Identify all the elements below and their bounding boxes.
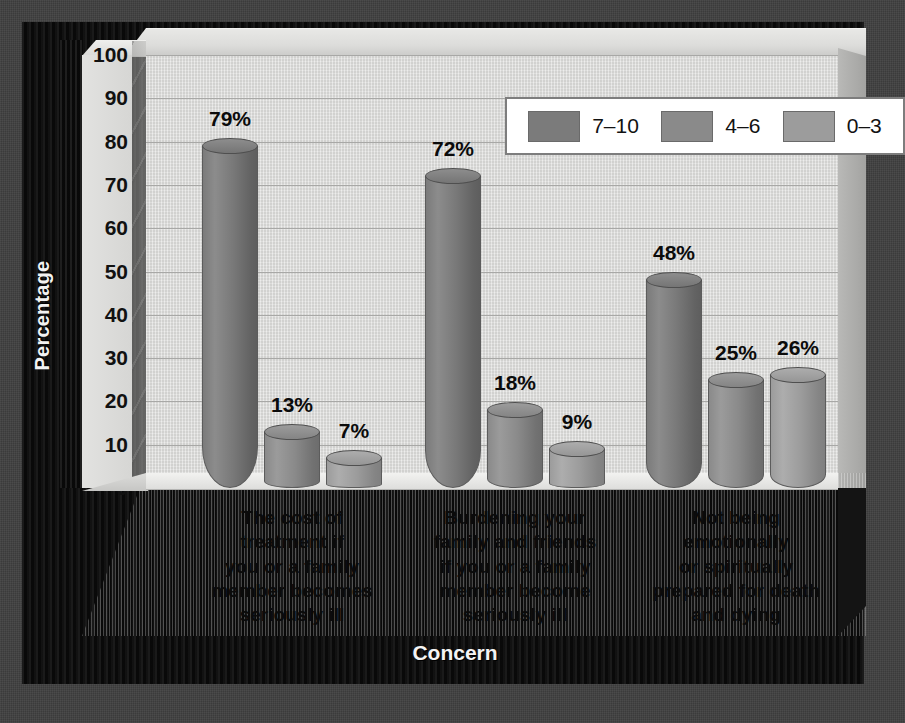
y-axis-tick-label: 100 <box>82 44 128 65</box>
bar-value-label: 9% <box>531 411 623 432</box>
y-axis-side-face <box>132 41 146 488</box>
bar-value-label: 79% <box>184 108 276 129</box>
bar-value-label: 26% <box>752 337 844 358</box>
y-axis-dark-column <box>60 40 82 488</box>
screenshot-canvas: Percentage Concern 100908070605040302010… <box>0 0 905 723</box>
y-axis-tick-label: 50 <box>82 261 128 282</box>
x-axis-category-label-line: member become <box>403 579 627 603</box>
y-axis-tick-label: 80 <box>82 131 128 152</box>
legend-label-4-6: 4–6 <box>725 114 760 138</box>
legend-swatch-4-6 <box>661 111 713 142</box>
bar-body <box>202 146 258 488</box>
x-axis-category-label-line: if you or a family <box>403 555 627 579</box>
legend-item-1[interactable]: 4–6 <box>661 111 760 142</box>
y-axis-tick-label: 40 <box>82 304 128 325</box>
x-axis-category-label-line: and dying <box>621 603 851 627</box>
bar-value-label: 13% <box>246 394 338 415</box>
gridline <box>146 55 838 56</box>
x-axis-category-label-line: member becomes <box>180 579 404 603</box>
x-axis-category-label-line: prepared for death <box>621 579 851 603</box>
x-axis-category-label-line: The cost of <box>180 506 404 530</box>
x-axis-category-label-line: or spiritually <box>621 555 851 579</box>
bar-top-cap <box>708 372 764 388</box>
bar-value-label: 72% <box>407 138 499 159</box>
y-axis-tick-label: 20 <box>82 390 128 411</box>
y-axis-tick-strip: 1009080706050403020100 <box>82 55 132 488</box>
bar-top-cap <box>326 450 382 466</box>
x-axis-category-label: The cost oftreatment ifyou or a familyme… <box>180 506 404 628</box>
bar-value-label: 18% <box>469 372 561 393</box>
x-axis-category-label: Not beingemotionallyor spirituallyprepar… <box>621 506 851 628</box>
x-axis-category-label-line: treatment if <box>180 530 404 554</box>
back-wall-top-face <box>124 28 866 57</box>
x-axis-category-label-line: seriously ill <box>180 603 404 627</box>
bar-value-label: 48% <box>628 242 720 263</box>
bar[interactable] <box>425 176 481 488</box>
x-axis-category-label-line: family and friends <box>403 530 627 554</box>
y-axis-tick-label: 70 <box>82 174 128 195</box>
y-axis-tick-label: 10 <box>82 434 128 455</box>
legend: 7–10 4–6 0–3 <box>505 97 905 155</box>
x-axis-category-label-line: emotionally <box>621 530 851 554</box>
bar-top-cap <box>202 138 258 154</box>
bar[interactable] <box>202 146 258 488</box>
legend-label-7-10: 7–10 <box>592 114 639 138</box>
y-axis-tick-label: 60 <box>82 217 128 238</box>
legend-item-0[interactable]: 7–10 <box>528 111 639 142</box>
legend-item-2[interactable]: 0–3 <box>783 111 882 142</box>
bar[interactable] <box>549 449 605 488</box>
bar-value-label: 7% <box>308 420 400 441</box>
y-axis-tick-label: 30 <box>82 347 128 368</box>
legend-swatch-7-10 <box>528 111 580 142</box>
legend-label-0-3: 0–3 <box>847 114 882 138</box>
bar-body <box>646 280 702 488</box>
x-axis-category-label-line: Burdening your <box>403 506 627 530</box>
bar[interactable] <box>646 280 702 488</box>
legend-swatch-0-3 <box>783 111 835 142</box>
bar-body <box>425 176 481 488</box>
bar[interactable] <box>770 375 826 488</box>
bar-top-cap <box>549 441 605 457</box>
bar-body <box>770 375 826 488</box>
bar-body <box>708 380 764 488</box>
x-axis-category-label: Burdening yourfamily and friendsif you o… <box>403 506 627 628</box>
bar[interactable] <box>326 458 382 488</box>
x-axis-category-label-line: Not being <box>621 506 851 530</box>
bar[interactable] <box>708 380 764 488</box>
y-axis-tick-label: 90 <box>82 87 128 108</box>
chart-3d-body: 1009080706050403020100 7–10 4–6 0–3 79%7… <box>60 28 866 636</box>
x-axis-category-label-line: seriously ill <box>403 603 627 627</box>
x-axis-category-label-line: you or a family <box>180 555 404 579</box>
